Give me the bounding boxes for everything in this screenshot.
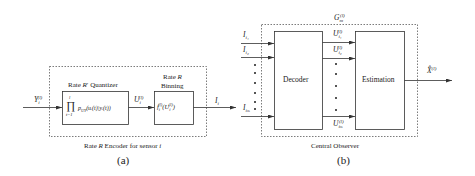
ellipsis-dot [335, 97, 337, 99]
formula-body: (uᵢ(t)|yᵢ(t)) [86, 105, 111, 111]
decoder-label: Decoder [283, 76, 308, 84]
ellipsis-dot [335, 63, 337, 65]
ellipsis-dot [254, 72, 256, 74]
ellipsis-dot [254, 82, 256, 84]
symbol: X̂ [427, 66, 432, 75]
ellipsis-dot [254, 92, 256, 94]
subscript: i₁ [246, 35, 249, 40]
binning-title-line2: Binning [161, 83, 184, 90]
figure-a-label: (a) [117, 155, 129, 166]
input-label-y: Yi(l) [34, 96, 42, 104]
formula-sub: i [159, 107, 160, 112]
ellipsis-dot [254, 108, 256, 110]
subscript: m [339, 18, 343, 23]
output-label-i: Ii [215, 97, 219, 105]
title-text: Rate [163, 73, 178, 81]
figure-b-caption: Central Observer [311, 143, 359, 150]
product-symbol: ∏ [66, 100, 75, 111]
superscript: (l) [338, 29, 343, 34]
subscript: i₂ [338, 50, 341, 55]
figure-a-caption: Rate R Encoder for sensor i [84, 143, 161, 150]
product-lower-limit: t=1 [66, 113, 73, 118]
subscript: i₂ [246, 50, 249, 55]
caption-i: i [159, 142, 161, 150]
input-label-m: Iiₘ [243, 104, 250, 112]
title-text-post: Quantizer [88, 81, 117, 89]
formula-arg-sup: (l) [168, 102, 172, 107]
estimation-label: Estimation [362, 76, 395, 84]
quantizer-formula: pUY(uᵢ(t)|yᵢ(t)) [78, 105, 111, 111]
title-r: R [178, 73, 182, 81]
caption-text-mid: Encoder for sensor [103, 142, 159, 150]
figure-b-label: (b) [337, 155, 350, 166]
group-label-g: Gm(l) [334, 14, 345, 22]
input-label-2: Ii₂ [243, 46, 249, 54]
superscript: (l) [338, 45, 343, 50]
binning-title-line1: Rate R [163, 74, 182, 81]
subscript: i [139, 100, 140, 105]
subscript: i [218, 101, 219, 106]
formula-sub: UY [81, 108, 86, 113]
formula-sup: (l) [158, 102, 162, 107]
formula-close: ) [173, 103, 175, 110]
input-label-1: Ii₁ [243, 31, 249, 39]
superscript: (l) [340, 13, 345, 18]
ellipsis-dot [335, 109, 337, 111]
subscript: i₁ [338, 34, 341, 39]
subscript: iₘ [338, 124, 342, 129]
subscript: i [38, 100, 39, 105]
decoded-label-1: Ui₁(l) [333, 30, 342, 38]
binning-formula: fi(l)(Ui(l)) [157, 104, 175, 111]
superscript: (l) [139, 95, 144, 100]
caption-text: Rate [84, 142, 99, 150]
quantizer-title: Rate R′ Quantizer [68, 82, 118, 89]
decoded-label-2: Ui₂(l) [333, 46, 342, 54]
subscript: iₘ [246, 108, 250, 113]
ellipsis-dot [335, 73, 337, 75]
ellipsis-dot [254, 101, 256, 103]
output-label-xhat: X̂(l) [427, 67, 436, 75]
superscript: (l) [432, 66, 437, 71]
superscript: (l) [38, 95, 43, 100]
intermediate-label-u: Ui(l) [134, 96, 144, 104]
decoded-label-m: Uiₘ(l) [333, 120, 344, 128]
title-text: Rate [68, 81, 83, 89]
ellipsis-dot [335, 85, 337, 87]
ellipsis-dot [254, 64, 256, 66]
superscript: (l) [339, 119, 344, 124]
